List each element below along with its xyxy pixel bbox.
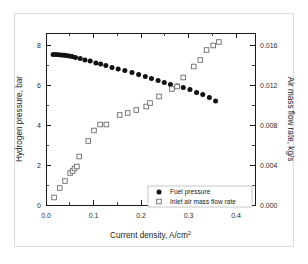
data-point bbox=[63, 179, 68, 184]
data-point bbox=[75, 164, 80, 169]
data-point bbox=[162, 80, 167, 85]
data-point bbox=[122, 68, 127, 73]
data-point bbox=[181, 85, 186, 90]
data-point bbox=[82, 58, 87, 63]
data-point bbox=[93, 61, 98, 66]
data-point bbox=[198, 58, 203, 63]
data-point bbox=[98, 122, 103, 127]
y-right-tick-label: 0.004 bbox=[260, 162, 278, 169]
y-left-axis-title: Hydrogen pressure, bar bbox=[15, 76, 24, 162]
data-point bbox=[157, 94, 162, 99]
x-tick-label: 0.1 bbox=[89, 212, 99, 219]
y-left-tick-label: 0 bbox=[37, 202, 41, 209]
data-point bbox=[103, 63, 108, 68]
series-inlet-air-mass-flow-rate bbox=[52, 40, 221, 200]
data-point bbox=[134, 108, 139, 113]
data-point bbox=[156, 78, 161, 83]
legend-marker-fuel-pressure bbox=[157, 190, 162, 195]
data-point bbox=[194, 90, 199, 95]
legend-label: Inlet air mass flow rate bbox=[170, 198, 236, 205]
series-fuel-pressure bbox=[51, 52, 218, 103]
data-point bbox=[52, 195, 57, 200]
legend-label: Fuel pressure bbox=[170, 188, 211, 196]
y-left-tick-label: 6 bbox=[37, 82, 41, 89]
x-axis-title: Current density, A/cm2 bbox=[110, 230, 191, 240]
data-point bbox=[73, 55, 78, 60]
data-point bbox=[149, 76, 154, 81]
data-point bbox=[143, 74, 148, 79]
data-point bbox=[125, 111, 130, 116]
chart-plot-area: 0.00.10.20.30.4024680.0000.0040.0080.012… bbox=[0, 0, 308, 264]
data-point bbox=[200, 92, 205, 97]
x-tick-label: 0.4 bbox=[231, 212, 241, 219]
data-point bbox=[181, 75, 186, 80]
data-point bbox=[217, 40, 222, 45]
data-point bbox=[78, 56, 83, 61]
y-right-tick-label: 0.016 bbox=[260, 42, 278, 49]
chart-legend: Fuel pressureInlet air mass flow rate bbox=[148, 186, 252, 207]
data-point bbox=[207, 95, 212, 100]
data-point bbox=[98, 62, 103, 67]
data-point bbox=[117, 113, 122, 118]
y-left-tick-label: 8 bbox=[37, 42, 41, 49]
scatter-chart-svg: 0.00.10.20.30.4024680.0000.0040.0080.012… bbox=[0, 0, 308, 264]
data-point bbox=[77, 154, 82, 159]
data-point bbox=[168, 82, 173, 87]
data-point bbox=[92, 128, 97, 133]
y-right-tick-label: 0.008 bbox=[260, 122, 278, 129]
data-point bbox=[104, 122, 109, 127]
x-tick-label: 0.3 bbox=[184, 212, 194, 219]
data-point bbox=[129, 70, 134, 75]
data-point bbox=[116, 67, 121, 72]
data-point bbox=[175, 84, 180, 89]
y-right-tick-label: 0.012 bbox=[260, 82, 278, 89]
data-point bbox=[187, 87, 192, 92]
y-right-tick-label: 0.000 bbox=[260, 202, 278, 209]
data-point bbox=[148, 101, 153, 106]
data-point bbox=[110, 65, 115, 70]
data-point bbox=[204, 48, 209, 53]
data-point bbox=[88, 59, 93, 64]
y-right-axis-title: Air mass flow rate, kg/s bbox=[286, 77, 295, 162]
data-point bbox=[136, 72, 141, 77]
data-point bbox=[213, 99, 218, 104]
data-point bbox=[86, 139, 91, 144]
x-tick-label: 0.0 bbox=[41, 212, 51, 219]
data-point bbox=[191, 64, 196, 69]
data-point bbox=[57, 186, 62, 191]
x-tick-label: 0.2 bbox=[136, 212, 146, 219]
y-left-tick-label: 4 bbox=[37, 122, 41, 129]
legend-marker-inlet-air-mass-flow-rate bbox=[157, 199, 162, 204]
y-left-tick-label: 2 bbox=[37, 162, 41, 169]
x-axis-title-exponent: 2 bbox=[188, 230, 191, 236]
data-point bbox=[211, 43, 216, 48]
data-point bbox=[170, 87, 175, 92]
